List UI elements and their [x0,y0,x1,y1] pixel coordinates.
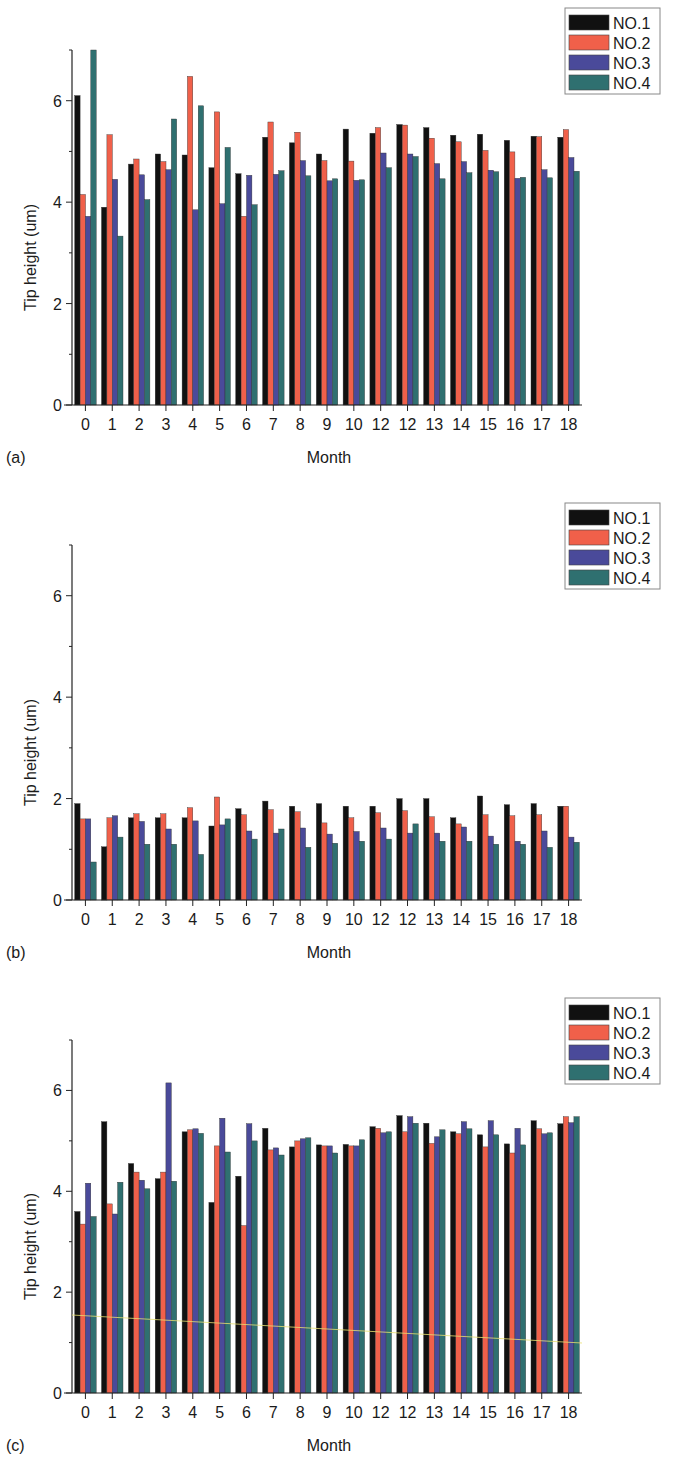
bar-no2-month-4 [187,1130,192,1393]
bar-no1-month-14 [451,135,456,405]
bar-no3-month-9 [327,181,332,405]
bar-no1-month-12 [370,133,375,405]
bar-no1-month-1 [102,1122,107,1393]
chart-panel-a: 02460123456789101212131415161718MonthTip… [0,0,687,490]
bar-no1-month-0 [75,1212,80,1394]
bar-no2-month-3 [161,162,166,405]
bar-no3-month-3 [166,1083,171,1393]
bar-no2-month-14 [456,824,461,900]
bar-no4-month-15 [493,844,498,900]
legend-label: NO.4 [613,1065,650,1082]
bar-no3-month-7 [273,174,278,405]
bar-chart-a: 02460123456789101212131415161718MonthTip… [0,0,687,490]
x-tick-label: 12 [399,416,417,433]
bar-no3-month-18 [569,158,574,406]
bar-no4-month-12 [413,1123,418,1393]
x-tick-label: 9 [323,1404,332,1421]
bar-no3-month-6 [247,831,252,900]
bar-no2-month-0 [80,195,85,406]
bar-no3-month-14 [461,1122,466,1393]
bar-no3-month-1 [112,816,117,900]
legend-label: NO.3 [613,55,650,72]
bar-no4-month-14 [467,841,472,900]
bar-no2-month-13 [429,817,434,900]
bar-no4-month-0 [91,1217,96,1394]
bar-no2-month-7 [268,122,273,405]
bar-no3-month-12 [381,153,386,405]
x-tick-label: 3 [161,911,170,928]
x-tick-label: 12 [372,1404,390,1421]
x-tick-label: 10 [345,1404,363,1421]
x-tick-label: 14 [452,416,470,433]
bar-no2-month-2 [134,159,139,405]
x-tick-label: 8 [296,1404,305,1421]
legend-swatch [569,570,609,585]
bar-no3-month-12 [381,1133,386,1393]
bar-no4-month-5 [225,1152,230,1393]
y-tick-label: 6 [53,588,62,605]
bar-no3-month-7 [273,833,278,900]
bar-no2-month-8 [295,132,300,405]
bar-no2-month-9 [322,161,327,405]
bar-no1-month-10 [343,806,348,900]
bar-no2-month-7 [268,1150,273,1393]
legend-swatch [569,75,609,90]
bar-no4-month-13 [440,841,445,900]
y-tick-label: 4 [53,194,62,211]
bar-no1-month-9 [316,804,321,900]
bar-no1-month-4 [182,155,187,405]
x-tick-label: 6 [242,911,251,928]
x-tick-label: 12 [399,911,417,928]
x-tick-label: 8 [296,911,305,928]
bar-no2-month-12 [375,1128,380,1393]
bar-no4-month-1 [118,837,123,900]
legend: NO.1NO.2NO.3NO.4 [565,998,660,1084]
bar-no4-month-3 [171,119,176,405]
bar-no2-month-15 [483,815,488,900]
bar-no1-month-2 [128,164,133,405]
bar-no1-month-8 [289,806,294,900]
bar-no2-month-0 [80,1224,85,1393]
bar-no3-month-16 [515,178,520,405]
bar-no3-month-18 [569,837,574,900]
bar-no2-month-4 [187,76,192,405]
bar-no4-month-17 [547,1133,552,1393]
x-tick-label: 9 [323,911,332,928]
bar-no4-month-7 [279,171,284,405]
y-tick-label: 2 [53,1284,62,1301]
bar-no4-month-16 [520,844,525,900]
bar-no1-month-12 [370,806,375,900]
y-tick-label: 0 [53,1385,62,1402]
bar-no4-month-15 [493,172,498,405]
bar-no1-month-12 [397,125,402,406]
bar-no1-month-1 [102,207,107,405]
bar-no3-month-18 [569,1123,574,1393]
bar-no1-month-10 [343,1144,348,1393]
bar-no4-month-13 [440,1130,445,1393]
x-tick-label: 14 [452,911,470,928]
bar-no2-month-0 [80,819,85,900]
bar-no3-month-9 [327,1146,332,1393]
bar-no2-month-1 [107,1204,112,1393]
bar-no2-month-12 [402,1132,407,1393]
bar-no3-month-8 [300,161,305,405]
bar-no2-month-5 [214,797,219,900]
bar-no2-month-3 [161,814,166,900]
bar-no3-month-17 [542,1134,547,1393]
legend-swatch [569,530,609,545]
legend-label: NO.4 [613,570,650,587]
y-tick-label: 4 [53,1183,62,1200]
bar-no3-month-13 [434,164,439,405]
bar-no3-month-12 [381,828,386,900]
bar-no1-month-18 [558,806,563,900]
bar-no2-month-1 [107,135,112,405]
y-tick-label: 6 [53,1082,62,1099]
bar-no4-month-1 [118,236,123,405]
bar-no4-month-7 [279,1155,284,1393]
bar-no4-month-6 [252,205,257,405]
bar-no3-month-1 [112,179,117,405]
bar-no3-month-3 [166,170,171,405]
legend-label: NO.2 [613,35,650,52]
bar-no3-month-6 [247,1124,252,1393]
bar-no4-month-0 [91,862,96,900]
